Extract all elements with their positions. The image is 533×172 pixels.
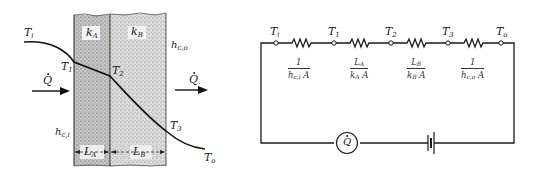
node-t3 [446,41,450,45]
battery-icon [428,132,434,154]
node-t2 [389,41,393,45]
resistor-layer-b [393,39,446,47]
node-label-t3: T3 [442,26,454,39]
source-label-q: Q [343,137,351,147]
node-label-t1: T1 [328,26,340,39]
node-ti [274,41,278,45]
resistor-inner-convection [278,39,332,47]
resistor-outer-convection [450,39,499,47]
resistance-outer-convection: 1 hc,o A [461,58,484,80]
resistor-layer-a [336,39,389,47]
node-t1 [332,41,336,45]
node-to [499,41,503,45]
node-label-ti: Ti [270,26,280,39]
resistance-inner-convection: 1 hc,i A [288,58,310,80]
resistance-layer-a: LA kA A [350,58,368,80]
figure: Ti T1 T2 T3 To kA kB hc,i hc,o LA LB Q Q [0,0,533,172]
resistance-layer-b: LB kB A [407,58,425,80]
node-label-t2: T2 [385,26,397,39]
node-label-to: To [496,26,508,39]
